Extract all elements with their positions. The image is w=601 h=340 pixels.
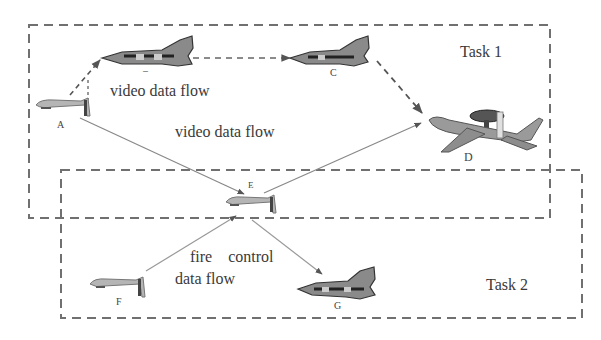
video-data-flow-label-1: video data flow (110, 83, 210, 99)
fire-control-label-line1: fire control (190, 249, 274, 265)
task2-label: Task 2 (486, 277, 528, 293)
video-data-flow-label-2: video data flow (175, 124, 275, 140)
fighter-c-icon (290, 36, 369, 66)
edge-e-d (264, 123, 421, 193)
node-label-b: – (143, 66, 148, 76)
node-label-e: E (248, 181, 254, 190)
node-label-d: D (464, 151, 473, 163)
fighter-b-icon (102, 36, 193, 66)
node-label-c: C (330, 68, 337, 78)
edge-e-g (252, 220, 322, 274)
node-label-a: A (57, 120, 64, 130)
uav-f-icon (90, 277, 145, 297)
fighter-g-icon (298, 267, 375, 299)
uav-a-icon (36, 98, 90, 116)
fire-control-label-line2: data flow (175, 271, 235, 287)
edge-a-b (70, 60, 100, 100)
node-label-g: G (334, 301, 341, 311)
awacs-d-icon (429, 110, 543, 152)
uav-e-icon (226, 195, 276, 213)
node-label-f: F (116, 297, 122, 307)
edge-c-d (377, 61, 422, 113)
task1-label: Task 1 (460, 44, 502, 60)
